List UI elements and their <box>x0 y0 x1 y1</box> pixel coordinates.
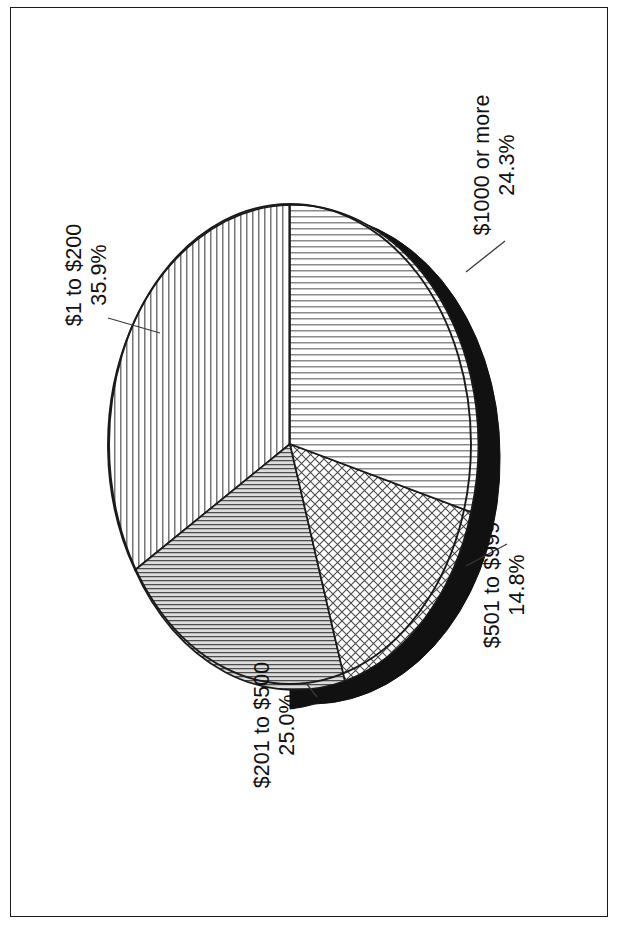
pie-chart-figure: $1 to $200 35.9% $1000 or more 24.3% $20… <box>0 0 624 936</box>
slice-label-201-to-500: $201 to $500 25.0% <box>250 640 300 810</box>
page-root: $1 to $200 35.9% $1000 or more 24.3% $20… <box>0 0 624 936</box>
slice-label-501-to-999-name: $501 to $999 <box>480 500 505 670</box>
slice-label-501-to-999: $501 to $999 14.8% <box>480 500 530 670</box>
slice-label-1000-or-more-percent: 24.3% <box>495 65 520 265</box>
slice-label-1000-or-more: $1000 or more 24.3% <box>470 65 520 265</box>
slice-label-201-to-500-name: $201 to $500 <box>250 640 275 810</box>
slice-label-501-to-999-percent: 14.8% <box>505 500 530 670</box>
slice-label-1000-or-more-name: $1000 or more <box>470 65 495 265</box>
slice-label-1-to-200: $1 to $200 35.9% <box>62 200 112 350</box>
slice-label-201-to-500-percent: 25.0% <box>275 640 300 810</box>
slice-label-1-to-200-name: $1 to $200 <box>62 200 87 350</box>
slice-label-1-to-200-percent: 35.9% <box>87 200 112 350</box>
pie-chart-svg <box>0 0 624 936</box>
